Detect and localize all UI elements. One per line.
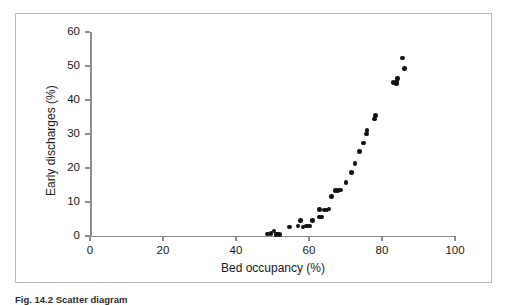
x-tick-mark <box>381 236 383 241</box>
y-tick-label: 60 <box>50 25 80 37</box>
y-tick-label: 50 <box>50 59 80 71</box>
data-point <box>357 149 362 154</box>
data-point <box>353 161 358 166</box>
y-tick-mark <box>85 65 90 67</box>
data-point <box>287 225 292 230</box>
y-tick-mark <box>85 167 90 169</box>
x-tick-mark <box>162 236 164 241</box>
y-tick-label: 0 <box>50 229 80 241</box>
data-point <box>402 66 407 71</box>
data-point <box>349 170 354 175</box>
data-point <box>296 224 301 229</box>
y-tick-mark <box>85 201 90 203</box>
x-tick-label: 40 <box>216 244 256 256</box>
scatter-plot: 0102030405060 020406080100 Bed occupancy… <box>0 0 510 305</box>
data-point <box>310 218 315 223</box>
data-point <box>307 224 312 229</box>
data-point <box>365 128 370 133</box>
x-tick-label: 60 <box>289 244 329 256</box>
data-point <box>395 76 400 81</box>
x-tick-label: 0 <box>70 244 110 256</box>
figure-caption: Fig. 14.2 Scatter diagram <box>15 294 127 305</box>
data-point <box>400 56 405 61</box>
y-tick-label: 10 <box>50 195 80 207</box>
x-axis-line <box>90 236 456 238</box>
data-point <box>298 218 303 223</box>
data-point <box>338 188 343 193</box>
data-point <box>277 232 282 237</box>
y-axis-title: Early discharges (%) <box>44 85 58 196</box>
x-tick-label: 80 <box>362 244 402 256</box>
x-tick-label: 100 <box>435 244 475 256</box>
data-point <box>327 207 332 212</box>
x-tick-mark <box>308 236 310 241</box>
y-axis-line <box>90 32 92 237</box>
data-point <box>320 215 325 220</box>
y-tick-mark <box>85 31 90 33</box>
data-point <box>361 141 366 146</box>
x-tick-mark <box>454 236 456 241</box>
x-tick-mark <box>235 236 237 241</box>
x-axis-title: Bed occupancy (%) <box>90 261 456 275</box>
x-tick-label: 20 <box>143 244 183 256</box>
y-tick-mark <box>85 99 90 101</box>
data-point <box>373 113 378 118</box>
data-point <box>329 194 334 199</box>
x-tick-mark <box>89 236 91 241</box>
y-tick-mark <box>85 133 90 135</box>
data-point <box>317 207 322 212</box>
data-point <box>344 180 349 185</box>
